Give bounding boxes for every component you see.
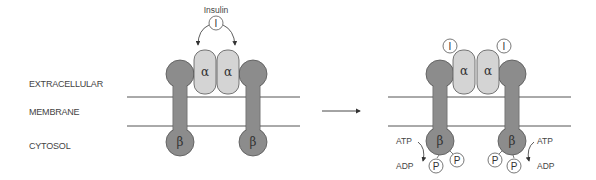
- svg-text:I: I: [503, 41, 506, 52]
- insulin-molecule: I: [209, 16, 223, 30]
- alpha-subunit-left: α: [453, 50, 475, 94]
- atp-adp-arrow-right: [528, 142, 534, 161]
- svg-text:P: P: [511, 161, 518, 172]
- label-membrane: MEMBRANE: [29, 107, 80, 117]
- beta-symbol: β: [177, 135, 184, 149]
- alpha-subunit-left: α: [194, 50, 216, 94]
- alpha-subunit-right: α: [477, 50, 499, 94]
- atp-label-left: ATP: [396, 136, 412, 146]
- beta-subunit-left: β: [166, 60, 194, 156]
- svg-text:P: P: [492, 155, 499, 166]
- alpha-subunit-right: α: [217, 50, 239, 94]
- binding-arrow-right: [223, 25, 235, 45]
- phosphate-group: P: [507, 159, 521, 173]
- svg-text:P: P: [433, 161, 440, 172]
- phosphate-group: P: [429, 159, 443, 173]
- beta-symbol: β: [250, 135, 257, 149]
- beta-symbol: β: [509, 134, 516, 148]
- label-cytosol: CYTOSOL: [29, 141, 71, 151]
- phosphate-group: P: [450, 153, 464, 167]
- adp-label-right: ADP: [537, 161, 555, 171]
- phosphate-group: P: [488, 153, 502, 167]
- panel-inactive: β β α α Insulin I: [127, 5, 300, 156]
- svg-text:P: P: [454, 155, 461, 166]
- atp-label-right: ATP: [537, 136, 553, 146]
- binding-arrow-left: [198, 25, 209, 45]
- panel-active: β β α α I I ATP ADP: [388, 39, 571, 173]
- insulin-receptor-diagram: EXTRACELLULAR MEMBRANE CYTOSOL β β α: [0, 0, 596, 180]
- alpha-symbol: α: [224, 65, 232, 79]
- alpha-symbol: α: [201, 65, 209, 79]
- alpha-symbol: α: [460, 64, 468, 78]
- beta-subunit-right: β: [498, 60, 526, 155]
- bound-insulin-right: I: [497, 39, 511, 53]
- beta-subunit-right: β: [239, 60, 267, 156]
- beta-symbol: β: [437, 134, 444, 148]
- label-extracellular: EXTRACELLULAR: [29, 79, 104, 89]
- svg-text:I: I: [215, 18, 218, 29]
- atp-adp-arrow-left: [418, 142, 424, 161]
- alpha-symbol: α: [484, 64, 492, 78]
- beta-subunit-left: β: [426, 60, 454, 155]
- svg-text:I: I: [449, 41, 452, 52]
- adp-label-left: ADP: [396, 161, 414, 171]
- insulin-label: Insulin: [204, 5, 229, 15]
- bound-insulin-left: I: [443, 39, 457, 53]
